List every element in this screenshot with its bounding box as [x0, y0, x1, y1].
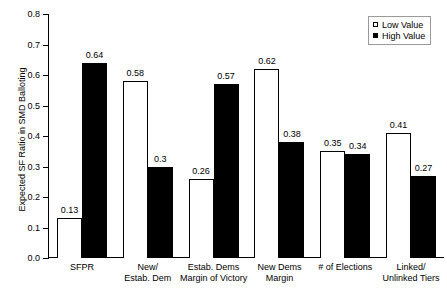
bar-high-value[interactable] — [279, 142, 304, 258]
legend-label-low: Low Value — [382, 20, 423, 30]
y-axis-tick-label: 0.8 — [0, 10, 40, 19]
bar-value-label: 0.38 — [272, 130, 312, 139]
bar-low-value[interactable] — [189, 179, 214, 258]
legend-item-low[interactable]: Low Value — [373, 19, 425, 30]
bar-value-label: 0.34 — [338, 142, 378, 151]
bar-high-value[interactable] — [214, 84, 239, 258]
bar-high-value[interactable] — [82, 63, 107, 258]
bar-group: 0.260.57 — [189, 14, 239, 258]
bar-high-value[interactable] — [148, 167, 173, 259]
bar-chart: Expected SF Ratio in SMD Balloting 0.00.… — [0, 0, 447, 307]
bar-low-value[interactable] — [254, 69, 279, 258]
y-axis-tick-label: 0.2 — [0, 193, 40, 202]
y-axis-tick-label: 0.5 — [0, 102, 40, 111]
bar-low-value[interactable] — [320, 151, 345, 258]
x-axis-category-line: Unlinked Tiers — [363, 273, 447, 284]
bar-low-value[interactable] — [57, 218, 82, 258]
bar-group: 0.620.38 — [254, 14, 304, 258]
bar-value-label: 0.41 — [379, 121, 419, 130]
bar-value-label: 0.64 — [74, 51, 114, 60]
legend-swatch-filled-square-icon — [373, 33, 378, 38]
bar-value-label: 0.58 — [115, 69, 155, 78]
bar-group: 0.130.64 — [57, 14, 107, 258]
x-axis-category-label: Linked/Unlinked Tiers — [363, 262, 447, 284]
bar-value-label: 0.3 — [140, 155, 180, 164]
y-axis-tick-label: 0.3 — [0, 163, 40, 172]
bar-high-value[interactable] — [345, 154, 370, 258]
bar-low-value[interactable] — [386, 133, 411, 258]
bar-value-label: 0.27 — [404, 164, 444, 173]
legend-label-high: High Value — [382, 31, 425, 41]
y-axis-tick-label: 0.4 — [0, 132, 40, 141]
bar-group: 0.410.27 — [386, 14, 436, 258]
x-axis-category-line: Linked/ — [363, 262, 447, 273]
x-axis-category-line: Margin — [231, 273, 327, 284]
bar-value-label: 0.62 — [247, 57, 287, 66]
bar-low-value[interactable] — [123, 81, 148, 258]
y-axis-tick — [43, 258, 49, 259]
bar-value-label: 0.57 — [206, 72, 246, 81]
bar-group: 0.350.34 — [320, 14, 370, 258]
bar-high-value[interactable] — [411, 176, 436, 258]
legend-swatch-open-square-icon — [373, 22, 378, 27]
y-axis-tick-label: 0.7 — [0, 41, 40, 50]
legend: Low Value High Value — [368, 16, 431, 45]
y-axis-tick-label: 0.1 — [0, 224, 40, 233]
legend-item-high[interactable]: High Value — [373, 30, 425, 41]
plot-area: 0.130.640.580.30.260.570.620.380.350.340… — [49, 14, 444, 258]
bar-group: 0.580.3 — [123, 14, 173, 258]
y-axis-tick-label: 0.6 — [0, 71, 40, 80]
